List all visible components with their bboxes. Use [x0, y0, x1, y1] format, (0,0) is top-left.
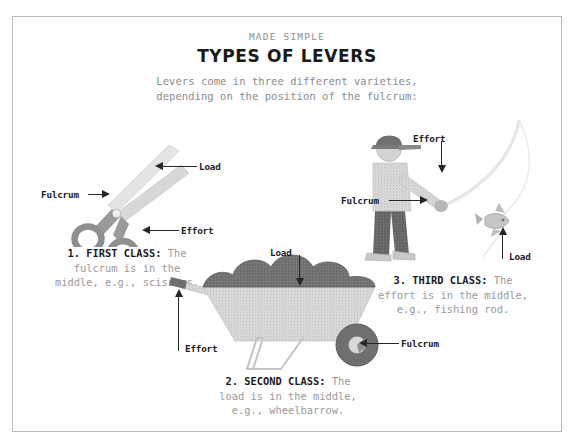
arrow-effort-first-class — [142, 226, 150, 234]
poster-frame: MADE SIMPLE TYPES OF LEVERS Levers come … — [12, 16, 562, 432]
caption-number-third-class: 3. — [394, 274, 407, 286]
label-load-first-class: Load — [199, 161, 221, 172]
arrow-load-first-class — [155, 162, 163, 170]
label-effort-second-class: Effort — [185, 343, 217, 354]
arrow-effort-third-class — [438, 165, 446, 173]
arrow-fulcrum-second-class — [359, 339, 367, 347]
caption-number-second-class: 2. — [225, 375, 238, 387]
caption-line-1-second-class: 2. SECOND CLASS: The — [173, 374, 403, 389]
caption-third-class: 3. THIRD CLASS: The effort is in the mid… — [343, 273, 563, 317]
leader-line-effort-second-class — [178, 297, 179, 351]
lever-diagram-third-class: Effort Fulcrum Load — [333, 107, 563, 267]
label-fulcrum-second-class: Fulcrum — [401, 338, 439, 349]
label-fulcrum-first-class: Fulcrum — [41, 189, 79, 200]
fishing-rod-illustration — [333, 107, 563, 267]
label-load-second-class: Load — [270, 247, 292, 258]
caption-class-third-class: THIRD CLASS — [412, 274, 481, 286]
leader-line-fulcrum-second-class — [367, 343, 399, 344]
label-fulcrum-third-class: Fulcrum — [341, 195, 379, 206]
intro-line-1: Levers come in three different varieties… — [13, 74, 561, 89]
arrow-load-second-class — [296, 278, 304, 286]
caption-line-3-second-class: e.g., wheelbarrow. — [173, 403, 403, 418]
leader-line-fulcrum-third-class — [389, 200, 421, 201]
leader-line-load-third-class — [502, 235, 503, 259]
arrow-fulcrum-first-class — [102, 190, 110, 198]
caption-class-first-class: FIRST CLASS — [86, 247, 155, 259]
arrow-fulcrum-third-class — [420, 196, 428, 204]
caption-tail-third-class: The — [487, 274, 512, 286]
caption-number-first-class: 1. — [68, 247, 81, 259]
leader-line-load-second-class — [299, 255, 300, 279]
leader-line-effort-third-class — [441, 141, 442, 166]
arrow-effort-second-class — [175, 289, 183, 297]
intro-text: Levers come in three different varieties… — [13, 74, 561, 104]
caption-line-3-third-class: e.g., fishing rod. — [343, 302, 563, 317]
caption-line-2-second-class: load is in the middle, — [173, 389, 403, 404]
caption-second-class: 2. SECOND CLASS: The load is in the midd… — [173, 374, 403, 418]
caption-line-1-third-class: 3. THIRD CLASS: The — [343, 273, 563, 288]
intro-line-2: depending on the position of the fulcrum… — [13, 89, 561, 104]
caption-line-2-third-class: effort is in the middle, — [343, 288, 563, 303]
caption-tail-second-class: The — [326, 375, 351, 387]
arrow-load-third-class — [499, 227, 507, 235]
caption-class-second-class: SECOND CLASS — [244, 375, 319, 387]
leader-line-fulcrum-first-class — [88, 194, 103, 195]
page-title: TYPES OF LEVERS — [13, 46, 561, 66]
leader-line-load-first-class — [163, 166, 197, 167]
label-load-third-class: Load — [509, 251, 531, 262]
kicker-text: MADE SIMPLE — [13, 31, 561, 42]
